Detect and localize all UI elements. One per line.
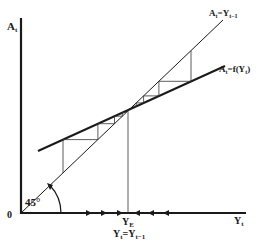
cobweb-diagram: At 0 45° Yt At=Yt−1 At=f(Yt) YE Yt=Yt−1 xyxy=(0,0,265,252)
arrow-left-icon xyxy=(134,210,140,216)
x-axis-arrows-right xyxy=(86,210,123,216)
angle-arc-arrowhead xyxy=(47,183,53,190)
line-f-label: At=f(Yt) xyxy=(219,64,250,75)
origin-label: 0 xyxy=(7,209,12,220)
equilibrium-condition-label: Yt=Yt−1 xyxy=(113,228,146,241)
angle-arc xyxy=(50,185,62,213)
arrow-left-icon xyxy=(163,210,169,216)
line-f-of-y xyxy=(38,66,225,151)
angle-label: 45° xyxy=(25,196,40,208)
arrow-right-icon xyxy=(101,210,107,216)
y-axis-label: At xyxy=(7,20,18,34)
arrow-left-icon xyxy=(148,210,154,216)
arrow-right-icon xyxy=(86,210,92,216)
x-axis-label: Yt xyxy=(234,215,244,228)
x-axis-arrows-left xyxy=(134,210,169,216)
line-45-label: At=Yt−1 xyxy=(209,8,238,19)
